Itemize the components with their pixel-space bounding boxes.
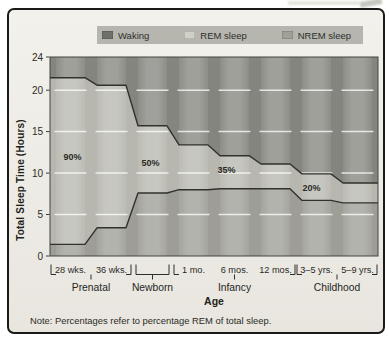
legend-item-waking: Waking bbox=[102, 30, 149, 41]
x-category-label: 36 wks. bbox=[96, 265, 127, 275]
legend-label: Waking bbox=[118, 30, 149, 41]
group-bracket bbox=[136, 265, 169, 275]
figure-note: Note: Percentages refer to percentage RE… bbox=[30, 315, 271, 326]
group-label: Infancy bbox=[218, 282, 252, 293]
x-category-label: 6 mos. bbox=[221, 265, 249, 275]
rem-percent-label: 90% bbox=[63, 152, 81, 162]
waking-swatch-icon bbox=[102, 31, 113, 39]
column-highlight bbox=[220, 57, 249, 256]
group-label: Newborn bbox=[132, 282, 173, 293]
column-highlight bbox=[138, 57, 167, 256]
legend-label: NREM sleep bbox=[298, 30, 351, 41]
nrem-swatch-icon bbox=[282, 31, 293, 39]
group-label: Prenatal bbox=[72, 282, 110, 293]
legend-item-rem: REM sleep bbox=[184, 30, 246, 41]
group-label: Childhood bbox=[314, 282, 361, 293]
rem-percent-label: 50% bbox=[141, 158, 159, 168]
column-highlight bbox=[343, 57, 372, 256]
screenshot-root: { "panel": { "bg_top": "#f3f1eb", "bg_bo… bbox=[0, 0, 389, 339]
x-category-label: 5–9 yrs. bbox=[341, 265, 374, 275]
legend: Waking REM sleep NREM sleep bbox=[97, 26, 363, 44]
x-category-label: 28 wks. bbox=[55, 265, 86, 275]
x-category-label: 12 mos. bbox=[259, 265, 292, 275]
legend-label: REM sleep bbox=[200, 30, 246, 41]
y-tick-label: 10 bbox=[32, 168, 44, 179]
column-highlight bbox=[97, 57, 126, 256]
y-tick-label: 15 bbox=[32, 126, 44, 137]
rem-percent-label: 20% bbox=[302, 183, 320, 193]
y-tick-label: 20 bbox=[32, 85, 44, 96]
x-axis-title: Age bbox=[50, 295, 378, 307]
x-category-label: 3–5 yrs. bbox=[300, 265, 333, 275]
y-tick-label: 0 bbox=[37, 251, 43, 262]
x-category-label: 1 mo. bbox=[182, 265, 205, 275]
y-tick-label: 5 bbox=[37, 209, 43, 220]
sleep-chart: 90%50%35%20%242015105028 wks.36 wks.Pren… bbox=[0, 0, 389, 339]
rem-swatch-icon bbox=[184, 31, 195, 39]
column-highlight bbox=[179, 57, 208, 256]
group-bracket bbox=[174, 265, 179, 275]
y-tick-label: 24 bbox=[32, 52, 44, 63]
legend-item-nrem: NREM sleep bbox=[282, 30, 351, 41]
y-axis-title: Total Sleep Time (Hours) bbox=[15, 80, 29, 280]
column-highlight bbox=[302, 57, 331, 256]
column-highlight bbox=[261, 57, 290, 256]
rem-percent-label: 35% bbox=[217, 165, 235, 175]
